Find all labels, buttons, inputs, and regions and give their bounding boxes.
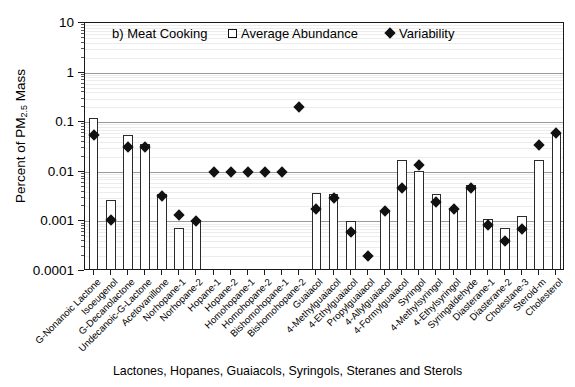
y-axis-tick [78, 121, 84, 122]
y-axis-tick-minor [81, 173, 85, 174]
bar [140, 144, 150, 269]
bar [397, 160, 407, 269]
y-axis-tick-minor [81, 246, 85, 247]
bar [380, 211, 390, 269]
y-axis-tick-minor [81, 91, 85, 92]
y-axis-tick-minor [81, 87, 85, 88]
y-axis-tick-minor [81, 132, 85, 133]
y-axis-tick-minor [81, 57, 85, 58]
x-axis-tick [230, 270, 231, 275]
x-axis-tick [538, 270, 539, 275]
bar [123, 135, 133, 269]
y-axis-tick-minor [81, 186, 85, 187]
y-axis-title-main: Percent of PM [13, 118, 28, 204]
x-axis-tick [418, 270, 419, 275]
y-axis-tick-minor [81, 176, 85, 177]
bar [449, 209, 459, 269]
y-axis-tick-minor [81, 197, 85, 198]
y-axis-tick-minor [81, 33, 85, 34]
y-axis-tick-minor [81, 147, 85, 148]
y-axis-tick-minor [81, 225, 85, 226]
y-axis-tick-minor [81, 205, 85, 206]
variability-marker [174, 209, 185, 220]
y-axis-tick-minor [81, 30, 85, 31]
x-axis-title: Lactones, Hopanes, Guaiacols, Syringols,… [0, 364, 575, 378]
x-axis-tick [281, 270, 282, 275]
variability-marker [276, 166, 287, 177]
y-axis-tick-minor [81, 156, 85, 157]
chart-title: b) Meat Cooking [112, 26, 207, 41]
x-axis-tick [298, 270, 299, 275]
y-axis-tick-label: 0.0001 [16, 263, 74, 278]
bar [174, 228, 184, 269]
y-axis-tick [78, 22, 84, 23]
y-axis-tick-minor [81, 191, 85, 192]
y-axis-tick-minor [81, 83, 85, 84]
x-axis-tick [144, 270, 145, 275]
x-axis-tick [504, 270, 505, 275]
bar [534, 160, 544, 269]
x-axis-tick [264, 270, 265, 275]
x-axis-tick [384, 270, 385, 275]
variability-marker [259, 166, 270, 177]
legend-marker-average-abundance [228, 29, 237, 38]
y-axis-tick-minor [81, 106, 85, 107]
y-axis-tick-minor [81, 48, 85, 49]
x-axis-tick [127, 270, 128, 275]
x-axis-tick [521, 270, 522, 275]
x-axis-tick [195, 270, 196, 275]
chart-figure: Percent of PM2.5 Mass 1010.10.010.0010.0… [0, 0, 575, 387]
y-axis-tick-label: 0.01 [16, 163, 74, 178]
x-axis-tick [350, 270, 351, 275]
y-axis-tick-minor [81, 235, 85, 236]
plot-area [84, 22, 564, 270]
y-axis-tick-minor [81, 231, 85, 232]
y-axis-tick-minor [81, 255, 85, 256]
x-axis-tick [435, 270, 436, 275]
y-axis-tick-minor [81, 228, 85, 229]
y-axis-tick-label: 1 [16, 64, 74, 79]
x-axis-tick [487, 270, 488, 275]
y-axis-tick [78, 270, 84, 271]
y-axis-tick [78, 171, 84, 172]
variability-marker [225, 166, 236, 177]
variability-marker [534, 139, 545, 150]
y-axis-tick [78, 72, 84, 73]
y-axis-tick-minor [81, 79, 85, 80]
y-axis-tick-minor [81, 129, 85, 130]
x-axis-tick [315, 270, 316, 275]
x-axis-tick [161, 270, 162, 275]
legend-label-average-abundance: Average Abundance [241, 26, 358, 41]
y-axis-tick-minor [81, 182, 85, 183]
y-axis-tick-minor [81, 24, 85, 25]
x-axis-tick [470, 270, 471, 275]
y-axis-tick-minor [81, 223, 85, 224]
x-axis-tick [178, 270, 179, 275]
data-layer [85, 23, 563, 269]
x-axis-tick [213, 270, 214, 275]
y-axis-tick-minor [81, 76, 85, 77]
variability-marker [362, 250, 373, 261]
y-axis-tick-minor [81, 141, 85, 142]
bar [552, 133, 562, 269]
y-axis-tick-minor [81, 123, 85, 124]
bar [157, 194, 167, 269]
y-axis-tick-minor [81, 27, 85, 28]
variability-marker [208, 166, 219, 177]
y-axis-tick-minor [81, 240, 85, 241]
y-axis-tick-minor [81, 98, 85, 99]
variability-marker [242, 166, 253, 177]
y-axis-tick-minor [81, 126, 85, 127]
x-axis-tick [367, 270, 368, 275]
x-axis-tick [247, 270, 248, 275]
bar [414, 171, 424, 269]
bar [466, 185, 476, 269]
legend-label-variability: Variability [399, 26, 454, 41]
x-axis-tick [453, 270, 454, 275]
x-axis-tick [555, 270, 556, 275]
bar [192, 220, 202, 269]
x-axis-tick [333, 270, 334, 275]
y-axis-tick-minor [81, 178, 85, 179]
y-axis-tick-minor [81, 74, 85, 75]
x-axis-tick [110, 270, 111, 275]
